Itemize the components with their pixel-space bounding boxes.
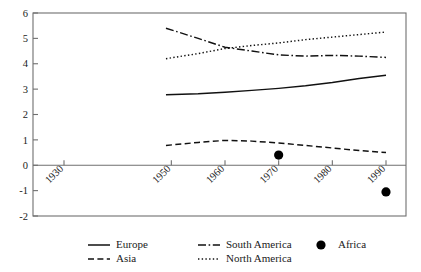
series-marker-africa (274, 151, 283, 160)
legend-label-south-america: South America (226, 238, 292, 250)
x-tick-label: 1970 (257, 163, 280, 186)
series-marker-africa (381, 187, 390, 196)
y-tick-label: 0 (23, 160, 28, 171)
y-tick-label: 3 (23, 84, 28, 95)
y-tick-label: 1 (23, 135, 28, 146)
y-tick-label: -1 (19, 185, 28, 196)
y-tick-label: 4 (23, 58, 29, 69)
legend-label-north-america: North America (226, 252, 292, 264)
legend-label-europe: Europe (116, 238, 148, 250)
y-tick-label: 6 (23, 8, 28, 19)
x-tick-label: 1990 (365, 163, 388, 186)
y-tick-label: 5 (23, 33, 28, 44)
series-line-north-america (166, 32, 386, 59)
plot-frame (33, 13, 406, 216)
y-axis-ticks: 6543210-1-2 (19, 8, 38, 222)
y-tick-label: 2 (23, 109, 28, 120)
series-line-europe (166, 75, 386, 95)
x-axis-ticks: 193019501960197019801990 (43, 160, 388, 185)
x-tick-label: 1960 (204, 163, 227, 186)
chart-legend: EuropeAsiaSouth AmericaNorth AmericaAfri… (88, 238, 366, 264)
legend-swatch-africa (316, 240, 325, 249)
x-tick-label: 1930 (43, 163, 66, 186)
series-line-asia (166, 140, 386, 152)
y-tick-label: -2 (19, 211, 28, 222)
x-tick-label: 1980 (311, 163, 334, 186)
legend-label-asia: Asia (116, 252, 136, 264)
legend-label-africa: Africa (338, 238, 366, 250)
plot-border (33, 13, 406, 216)
x-tick-label: 1950 (150, 163, 173, 186)
chart-figure: 6543210-1-2 193019501960197019801990 Eur… (0, 0, 421, 272)
chart-svg: 6543210-1-2 193019501960197019801990 Eur… (0, 0, 421, 272)
